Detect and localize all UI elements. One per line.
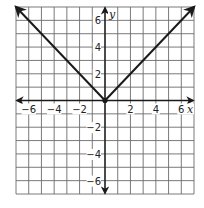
y-tick-label: 2 [95, 69, 101, 80]
x-tick-label: −6 [21, 104, 36, 115]
x-tick-label: −2 [72, 104, 87, 115]
y-tick-label: −4 [86, 149, 101, 160]
y-axis-label: y [108, 8, 116, 21]
x-tick-label: 4 [153, 104, 159, 115]
y-tick-label: 6 [95, 15, 101, 26]
coordinate-plane: −6−4−2246−6−4−2246xy [0, 0, 204, 208]
x-axis-label: x [187, 103, 194, 116]
y-tick-label: −2 [86, 122, 101, 133]
x-tick-label: −4 [47, 104, 62, 115]
x-tick-label: 2 [127, 104, 133, 115]
y-tick-label: 4 [95, 42, 101, 53]
y-tick-label: −6 [86, 176, 101, 187]
vertex-point [102, 98, 107, 103]
x-tick-label: 6 [178, 104, 184, 115]
